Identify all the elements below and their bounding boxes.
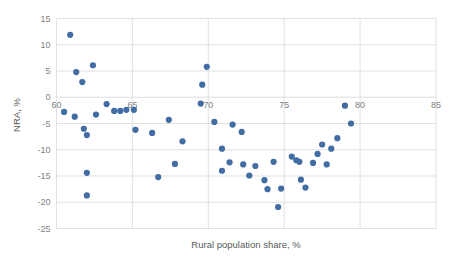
y-tick-label: 5	[45, 66, 50, 76]
y-tick-label: 15	[40, 14, 50, 24]
x-tick-label: 75	[279, 100, 289, 110]
data-point	[67, 32, 73, 38]
data-point	[132, 127, 138, 133]
x-axis-tick-labels: 606570758085	[51, 100, 441, 110]
data-point	[155, 174, 161, 180]
data-point	[84, 170, 90, 176]
data-point	[348, 120, 354, 126]
data-point	[103, 101, 109, 107]
data-point	[84, 132, 90, 138]
y-axis-title: NRA, %	[11, 98, 22, 132]
data-point	[61, 109, 67, 115]
x-tick-label: 60	[51, 100, 61, 110]
y-tick-label: -15	[37, 171, 50, 181]
data-point	[310, 160, 316, 166]
y-tick-label: -25	[37, 224, 50, 234]
data-point	[229, 121, 235, 127]
x-tick-label: 80	[355, 100, 365, 110]
data-point	[296, 159, 302, 165]
data-point	[172, 161, 178, 167]
data-point	[278, 186, 284, 192]
data-point	[219, 146, 225, 152]
data-point	[81, 126, 87, 132]
data-point	[319, 141, 325, 147]
data-point	[93, 111, 99, 117]
x-axis-title: Rural population share, %	[191, 239, 301, 250]
data-points-group	[61, 32, 354, 210]
data-point	[72, 114, 78, 120]
data-point	[204, 64, 210, 70]
data-point	[324, 161, 330, 167]
chart-canvas: 151050-5-10-15-20-25 606570758085 Rural …	[0, 0, 453, 259]
data-point	[298, 177, 304, 183]
x-tick-label: 85	[431, 100, 441, 110]
data-point	[302, 184, 308, 190]
y-tick-label: 10	[40, 40, 50, 50]
data-point	[73, 69, 79, 75]
data-point	[342, 103, 348, 109]
y-axis-tick-labels: 151050-5-10-15-20-25	[37, 14, 50, 234]
data-point	[166, 117, 172, 123]
data-point	[264, 186, 270, 192]
data-point	[275, 204, 281, 210]
x-tick-label: 70	[203, 100, 213, 110]
data-point	[123, 107, 129, 113]
data-point	[179, 138, 185, 144]
data-point	[198, 100, 204, 106]
data-point	[149, 130, 155, 136]
data-point	[270, 159, 276, 165]
data-point	[261, 177, 267, 183]
data-point	[211, 119, 217, 125]
data-point	[111, 108, 117, 114]
y-tick-label: 0	[45, 92, 50, 102]
y-tick-label: -5	[42, 119, 50, 129]
data-point	[90, 62, 96, 68]
data-point	[314, 151, 320, 157]
data-point	[117, 108, 123, 114]
scatter-chart: 151050-5-10-15-20-25 606570758085 Rural …	[0, 0, 453, 259]
data-point	[239, 129, 245, 135]
gridlines-group	[57, 19, 437, 229]
data-point	[199, 82, 205, 88]
y-tick-label: -20	[37, 197, 50, 207]
data-point	[334, 135, 340, 141]
y-tick-label: -10	[37, 145, 50, 155]
data-point	[240, 161, 246, 167]
data-point	[226, 159, 232, 165]
data-point	[252, 163, 258, 169]
data-point	[219, 168, 225, 174]
data-point	[84, 192, 90, 198]
data-point	[328, 146, 334, 152]
data-point	[246, 172, 252, 178]
data-point	[131, 107, 137, 113]
data-point	[79, 79, 85, 85]
